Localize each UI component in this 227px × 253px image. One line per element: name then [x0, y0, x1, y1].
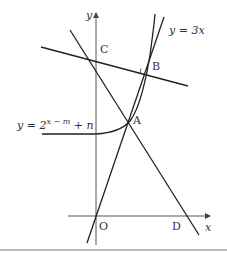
diagram: y x O C B A D y = 3x y = 2x − m + n: [0, 0, 227, 253]
exp-label-exponent: x − m: [46, 117, 70, 126]
origin-label: O: [99, 220, 108, 233]
line-y-3x-label: y = 3x: [168, 24, 205, 37]
point-d-label: D: [172, 220, 181, 233]
exp-label-base: y = 2: [16, 119, 46, 132]
line-y-3x: [87, 17, 164, 243]
line-cb: [41, 47, 188, 86]
point-c-label: C: [100, 43, 108, 56]
point-b-label: B: [152, 60, 160, 73]
x-axis-label: x: [205, 221, 212, 234]
exp-curve-label: y = 2x − m + n: [16, 117, 94, 132]
exp-label-tail: + n: [70, 119, 93, 132]
y-axis-label: y: [85, 9, 93, 22]
line-cd: [70, 30, 199, 235]
point-a-label: A: [132, 114, 142, 127]
